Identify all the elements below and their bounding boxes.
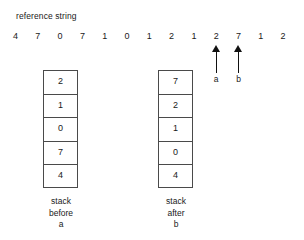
pointer-arrow-b: [232, 45, 245, 73]
stack-cell: 7: [158, 70, 193, 94]
reference-string-row: 4707101212712: [9, 29, 295, 43]
arrow-shaft: [216, 51, 217, 73]
arrow-shaft: [238, 51, 239, 73]
reference-string-item: 0: [121, 29, 134, 43]
reference-string-item: 7: [76, 29, 89, 43]
stack-after-b-caption: stack after b: [131, 196, 221, 231]
reference-string-item: 4: [9, 29, 22, 43]
stack-after-b-caption-line2: after: [131, 208, 221, 220]
reference-string-item: 2: [165, 29, 178, 43]
lru-stack-figure: reference string 4707101212712 ab 21074 …: [0, 0, 304, 240]
pointer-label-a: a: [210, 74, 223, 84]
stack-cell: 2: [43, 70, 78, 94]
reference-string-item: 2: [277, 29, 290, 43]
reference-string-item: 7: [232, 29, 245, 43]
reference-string-item: 0: [54, 29, 67, 43]
stack-before-a-caption-line2: before: [16, 208, 106, 220]
stack-cell: 2: [158, 94, 193, 118]
reference-string-item: 1: [254, 29, 267, 43]
stack-after-b-caption-line1: stack: [131, 196, 221, 208]
reference-string-item: 1: [187, 29, 200, 43]
reference-string-title: reference string: [16, 11, 77, 21]
stack-cell: 0: [158, 141, 193, 165]
stack-cell: 0: [43, 117, 78, 141]
stack-cell: 1: [43, 94, 78, 118]
stack-before-a: 21074: [43, 70, 78, 188]
stack-before-a-caption-line1: stack: [16, 196, 106, 208]
stack-before-a-caption: stack before a: [16, 196, 106, 231]
stack-cell: 4: [158, 164, 193, 188]
stack-after-b: 72104: [158, 70, 193, 188]
stack-cell: 4: [43, 164, 78, 188]
reference-string-item: 1: [98, 29, 111, 43]
pointer-arrow-a: [210, 45, 223, 73]
pointer-label-b: b: [232, 74, 245, 84]
stack-cell: 1: [158, 117, 193, 141]
reference-string-item: 2: [210, 29, 223, 43]
reference-string-item: 1: [143, 29, 156, 43]
stack-cell: 7: [43, 141, 78, 165]
stack-after-b-caption-line3: b: [131, 219, 221, 231]
reference-string-item: 7: [31, 29, 44, 43]
stack-before-a-caption-line3: a: [16, 219, 106, 231]
